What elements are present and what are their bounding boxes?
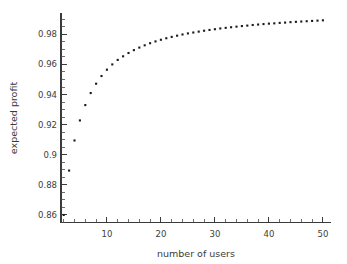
y-axis-tick-label: 0.9 (43, 150, 57, 160)
data-point (295, 21, 297, 23)
y-axis-tick-labels: 0.860.880.90.920.940.960.98 (38, 29, 57, 220)
data-point (246, 25, 248, 27)
y-axis-tick-label: 0.98 (38, 29, 57, 39)
data-point (111, 63, 113, 65)
data-point (84, 104, 86, 106)
data-point (322, 19, 324, 21)
data-point (235, 26, 237, 28)
data-point (63, 214, 65, 216)
data-point (219, 27, 221, 29)
data-point (90, 92, 92, 94)
data-point-group (63, 19, 324, 216)
data-point (214, 28, 216, 30)
data-point (187, 32, 189, 34)
data-point (127, 52, 129, 54)
data-point (306, 20, 308, 22)
data-point (208, 29, 210, 31)
data-point (279, 22, 281, 24)
data-point (122, 55, 124, 57)
data-point (311, 20, 313, 22)
x-axis-tick-label: 50 (317, 229, 328, 239)
data-point (133, 49, 135, 51)
data-point (181, 33, 183, 35)
data-point (106, 69, 108, 71)
data-point (73, 139, 75, 141)
data-point (284, 22, 286, 24)
y-axis-title: expected profit (8, 82, 19, 155)
x-axis-tick-labels: 1020304050 (101, 229, 328, 239)
data-point (300, 20, 302, 22)
data-point (203, 30, 205, 32)
data-point (171, 36, 173, 38)
data-point (117, 59, 119, 61)
data-point (100, 75, 102, 77)
data-point (225, 27, 227, 29)
data-point (192, 31, 194, 33)
data-point (316, 20, 318, 22)
data-point (252, 24, 254, 26)
y-axis-tick-label: 0.86 (38, 210, 57, 220)
data-point (230, 26, 232, 28)
data-point (154, 40, 156, 42)
y-axis-tick-label: 0.96 (38, 59, 57, 69)
data-point (241, 25, 243, 27)
data-point (138, 47, 140, 49)
data-point (176, 35, 178, 37)
data-point (68, 170, 70, 172)
y-axis-major-ticks (61, 34, 67, 215)
data-point (262, 23, 264, 25)
x-axis-tick-label: 10 (101, 229, 112, 239)
data-point (79, 119, 81, 121)
y-axis-tick-label: 0.88 (38, 180, 57, 190)
data-point (160, 39, 162, 41)
x-axis-title: number of users (157, 248, 235, 259)
data-point (95, 83, 97, 85)
data-point (144, 44, 146, 46)
chart-figure: 0.860.880.90.920.940.960.98 1020304050 n… (0, 0, 347, 264)
scatter-plot: 0.860.880.90.920.940.960.98 1020304050 n… (0, 0, 347, 264)
data-point (289, 21, 291, 23)
x-axis-tick-label: 20 (155, 229, 166, 239)
data-point (257, 23, 259, 25)
data-point (198, 31, 200, 33)
y-axis-tick-label: 0.92 (38, 120, 57, 130)
data-point (273, 22, 275, 24)
data-point (268, 23, 270, 25)
x-axis-tick-label: 30 (209, 229, 220, 239)
data-point (149, 42, 151, 44)
y-axis-tick-label: 0.94 (38, 90, 57, 100)
x-axis-tick-label: 40 (263, 229, 274, 239)
data-point (165, 37, 167, 39)
